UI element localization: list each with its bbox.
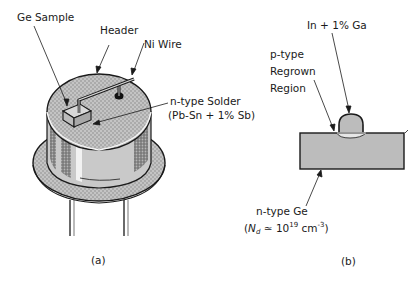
label-regrown-line3: Region [270, 82, 306, 95]
label-regrown-line2: Regrown [270, 65, 316, 78]
transistor-header-drawing [33, 26, 168, 236]
caption-a: (a) [91, 254, 106, 267]
caption-b: (b) [341, 255, 356, 268]
alloy-junction-drawing [300, 33, 408, 206]
n-type-ge-substrate [300, 133, 404, 169]
diagram-canvas [0, 0, 417, 282]
label-solder-line2: (Pb-Sn + 1% Sb) [168, 109, 255, 122]
label-substrate-line1: n-type Ge [256, 205, 308, 218]
label-substrate-line2: (Nd ≃ 1019 cm-3) [244, 219, 329, 239]
label-solder-line1: n-type Solder [170, 95, 241, 108]
label-ni-wire: Ni Wire [144, 38, 182, 51]
label-header: Header [100, 24, 138, 37]
label-dopant: In + 1% Ga [307, 19, 367, 32]
label-regrown-line1: p-type [270, 48, 304, 61]
label-ge-sample: Ge Sample [17, 11, 74, 24]
indium-dot [339, 114, 363, 133]
